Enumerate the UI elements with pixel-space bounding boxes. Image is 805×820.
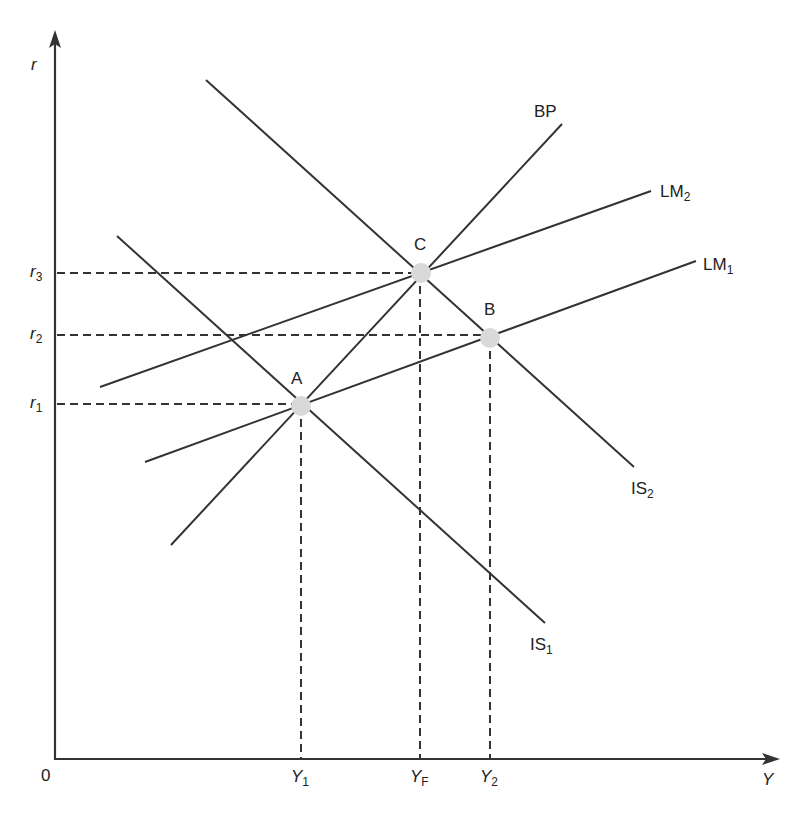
dashed-guides [57, 273, 490, 759]
x-axis-label: Y [762, 771, 773, 788]
tick-label-y1: Y1 [291, 768, 309, 788]
y-axis-label: r [31, 56, 37, 73]
tick-label-r1: r1 [30, 394, 42, 414]
curve-lm2 [100, 191, 651, 387]
tick-label-y2: Y2 [480, 768, 498, 788]
tick-label-yf: YF [410, 768, 429, 788]
equilibrium-points [291, 263, 500, 416]
curves [100, 80, 696, 623]
point-label-b: B [484, 301, 495, 318]
curve-label-lm2: LM2 [660, 183, 690, 203]
curve-label-lm1: LM1 [703, 256, 733, 276]
point-label-a: A [291, 370, 302, 387]
axes [49, 30, 780, 765]
curve-label-is2: IS2 [631, 480, 654, 500]
curve-is1 [117, 236, 545, 623]
curve-label-is1: IS1 [530, 636, 553, 656]
point-label-c: C [414, 236, 426, 253]
curve-label-bp: BP [534, 103, 557, 120]
tick-label-r2: r2 [30, 325, 42, 345]
islm-bp-diagram [0, 0, 805, 820]
origin-label: 0 [41, 767, 50, 784]
point-b [480, 328, 500, 348]
point-a [291, 396, 311, 416]
point-c [411, 263, 431, 283]
tick-label-r3: r3 [30, 263, 42, 283]
